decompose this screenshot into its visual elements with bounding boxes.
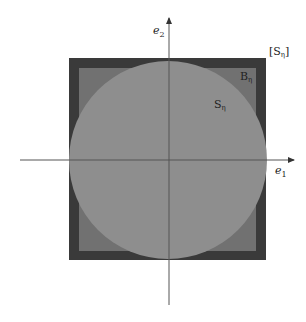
horizontal-axis-label: e1 bbox=[275, 164, 287, 179]
vertical-axis-label: e2 bbox=[153, 24, 165, 39]
outer-region-label: [Sη] bbox=[269, 45, 289, 59]
diagram-canvas: e2 e1 [Sη] Bη Sη bbox=[0, 0, 306, 322]
